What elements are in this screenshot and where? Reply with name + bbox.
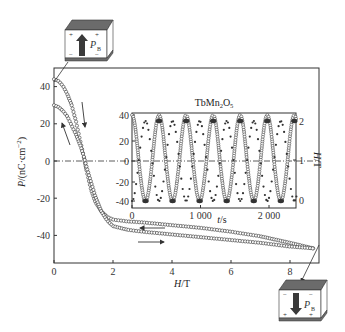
x-tick-label: 4	[170, 266, 175, 277]
inset-title: TbMn2O5	[195, 97, 234, 109]
sweep-direction-arrow-icon	[82, 102, 85, 127]
inset-right-tick-label: 2	[299, 116, 304, 127]
inset-x-tick-label: 2 000	[258, 210, 281, 221]
inset-left-tick-label: -40	[116, 196, 129, 207]
inset-x-tick-label: 0	[130, 210, 135, 221]
svg-text:P: P	[303, 299, 310, 310]
x-axis-label: H/T	[173, 278, 190, 289]
y-axis-label: P/(nC·cm−2)	[15, 137, 28, 188]
y-tick-label: 40	[40, 81, 50, 92]
y-tick-label: 20	[40, 118, 50, 129]
x-tick-label: 0	[52, 266, 57, 277]
polarization-up-box-icon: PB++−−	[65, 20, 113, 61]
inset-left-tick-label: 40	[119, 110, 129, 121]
inset-right-tick-label: 0	[299, 195, 304, 206]
polarization-down-box-icon: PB++−−	[279, 280, 327, 321]
svg-text:+: +	[283, 311, 287, 319]
inset-x-label: t/s	[217, 214, 227, 225]
svg-text:+: +	[95, 31, 99, 39]
y-tick-label: -20	[37, 193, 50, 204]
svg-text:−: −	[309, 291, 313, 299]
sweep-direction-arrow-icon	[62, 123, 70, 145]
svg-text:+: +	[309, 311, 313, 319]
inset-plot: 40200-20-4021001 0002 000	[116, 110, 304, 222]
svg-text:−: −	[69, 51, 73, 59]
inset-left-tick-label: -20	[116, 177, 129, 188]
y-tick-label: 0	[45, 156, 50, 167]
x-tick-label: 2	[111, 266, 116, 277]
inset-left-tick-label: 20	[119, 136, 129, 147]
inset-right-tick-label: 1	[299, 155, 304, 166]
svg-text:P: P	[89, 39, 96, 50]
x-tick-label: 6	[229, 266, 234, 277]
figure: 0246840200-20-40 40200-20-4021001 0002 0…	[0, 0, 345, 332]
inset-x-tick-label: 1 000	[189, 210, 212, 221]
inset-right-y-label: H/T	[312, 151, 323, 168]
y-tick-label: -40	[37, 230, 50, 241]
svg-text:−: −	[283, 291, 287, 299]
svg-text:−: −	[95, 51, 99, 59]
inset-left-tick-label: 0	[124, 156, 129, 167]
svg-text:+: +	[69, 31, 73, 39]
x-tick-label: 8	[288, 266, 293, 277]
